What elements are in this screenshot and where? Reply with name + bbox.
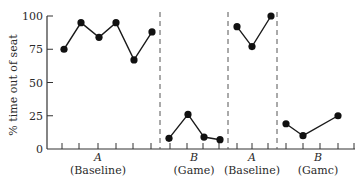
data-point [77,19,84,26]
phase-name-label: (Baseline) [224,164,280,177]
data-point [165,135,172,142]
y-tick-label: 50 [29,77,43,90]
data-point [282,120,289,127]
y-tick-label: 75 [29,43,43,56]
phase-letter-label: B [313,151,322,164]
phase-name-label: (Game) [174,164,215,177]
phase-labels: A(Baseline)B(Game)A(Baseline)B(Gamc) [70,151,338,177]
data-point [112,19,119,26]
x-axis [47,143,355,149]
data-point [148,28,155,35]
data-point [184,111,191,118]
y-tick-label: 25 [29,110,43,123]
y-tick-label: 100 [22,10,43,23]
data-point [248,43,255,50]
phase-letter-label: B [189,151,198,164]
data-point [334,112,341,119]
y-axis: 0255075100 [22,10,53,156]
data-point [95,34,102,41]
data-point [267,12,274,19]
data-point [200,133,207,140]
phase-name-label: (Baseline) [70,164,126,177]
phase-letter-label: A [247,151,256,164]
data-point [130,56,137,63]
data-point [233,23,240,30]
series-line [64,23,152,60]
series-line [237,16,271,47]
series-line [169,114,220,139]
phase-name-label: (Gamc) [298,164,339,177]
y-tick-label: 0 [36,143,43,156]
chart: % time out of seat 0255075100 A(Baseline… [0,0,364,182]
data-point [60,46,67,53]
data-point [216,136,223,143]
series-line [286,116,338,136]
data-point [299,132,306,139]
y-axis-label: % time out of seat [7,34,20,136]
phase-letter-label: A [93,151,102,164]
data-series [60,12,341,143]
